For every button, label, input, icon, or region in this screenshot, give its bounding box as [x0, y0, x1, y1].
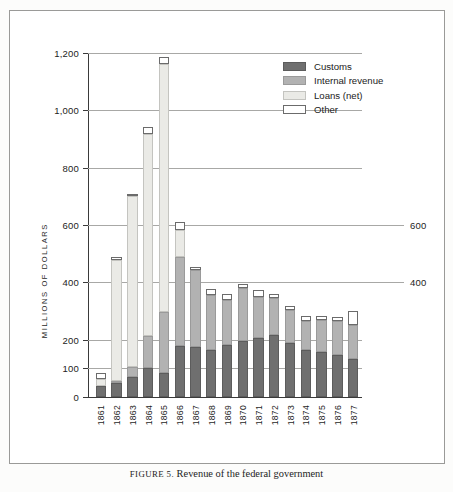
bar-segment-internal-revenue-1872: [269, 298, 279, 336]
y-axis-label-right-600: 600: [410, 220, 426, 231]
bar-1868[interactable]: [206, 289, 216, 397]
figure-caption: FIGURE 5. Revenue of the federal governm…: [0, 468, 453, 479]
legend-item-loans-net: Loans (net): [283, 88, 383, 103]
y-tick-600: [83, 225, 88, 226]
x-axis-label-1872: 1872: [270, 405, 280, 425]
bar-segment-internal-revenue-1865: [159, 312, 169, 372]
bar-segment-internal-revenue-1863: [127, 367, 137, 378]
bar-1871[interactable]: [253, 290, 263, 397]
bar-segment-customs-1866: [175, 346, 185, 397]
bar-1865[interactable]: [159, 57, 169, 397]
gridline-800: [88, 168, 362, 169]
y-axis-label-1200: 1,200: [54, 48, 79, 59]
bar-segment-customs-1870: [238, 341, 248, 397]
bar-segment-customs-1864: [143, 368, 153, 397]
x-axis-label-1862: 1862: [112, 405, 122, 425]
bar-segment-customs-1863: [127, 377, 137, 397]
bar-segment-customs-1868: [206, 350, 216, 397]
y-tick-800: [83, 168, 88, 169]
bar-segment-loans-net-1865: [159, 64, 169, 312]
y-tick-0: [83, 397, 88, 398]
legend-label-loans-net: Loans (net): [314, 90, 363, 101]
bar-segment-customs-1874: [301, 350, 311, 397]
chart-legend: Customs Internal revenue Loans (net) Oth…: [283, 59, 383, 117]
bar-1872[interactable]: [269, 294, 279, 397]
bar-segment-customs-1875: [316, 352, 326, 397]
bar-segment-internal-revenue-1867: [190, 270, 200, 346]
x-axis-label-1870: 1870: [238, 405, 248, 425]
bar-segment-loans-net-1866: [175, 230, 185, 256]
other-swatch: [283, 105, 306, 114]
bar-1876[interactable]: [332, 317, 342, 397]
bar-segment-internal-revenue-1869: [222, 300, 232, 346]
bar-segment-internal-revenue-1864: [143, 336, 153, 368]
bar-segment-customs-1876: [332, 355, 342, 397]
bar-segment-customs-1872: [269, 335, 279, 397]
bar-segment-internal-revenue-1866: [175, 257, 185, 346]
bar-1874[interactable]: [301, 316, 311, 397]
bar-segment-other-1864: [143, 127, 153, 134]
x-axis-label-1867: 1867: [191, 405, 201, 425]
bar-segment-loans-net-1861: [96, 379, 106, 386]
legend-item-other: Other: [283, 103, 383, 118]
x-axis-label-1865: 1865: [159, 405, 169, 425]
figure-page: 01002004006008001,0001,20040060018611862…: [0, 0, 453, 492]
bar-segment-internal-revenue-1877: [348, 325, 358, 359]
figure-caption-text: Revenue of the federal government: [177, 468, 324, 479]
bar-segment-customs-1865: [159, 373, 169, 397]
bar-1873[interactable]: [285, 306, 295, 397]
bar-1862[interactable]: [111, 257, 121, 397]
x-axis-label-1877: 1877: [349, 405, 359, 425]
x-axis-label-1875: 1875: [317, 405, 327, 425]
y-axis-label-400: 400: [63, 277, 79, 288]
y-tick-200: [83, 340, 88, 341]
bar-segment-customs-1867: [190, 347, 200, 397]
y-axis-label-800: 800: [63, 162, 79, 173]
y-axis-label-1000: 1,000: [54, 105, 79, 116]
y-axis-label-600: 600: [63, 220, 79, 231]
bar-segment-customs-1877: [348, 359, 358, 397]
x-axis-label-1876: 1876: [333, 405, 343, 425]
y-axis-title: MILLIONS OF DOLLARS: [40, 223, 49, 338]
bar-segment-customs-1862: [111, 383, 121, 397]
bar-1863[interactable]: [127, 194, 137, 397]
figure-number: FIGURE 5.: [130, 469, 174, 479]
bar-1864[interactable]: [143, 127, 153, 397]
bar-segment-customs-1869: [222, 345, 232, 397]
x-axis-label-1869: 1869: [223, 405, 233, 425]
bar-segment-other-1866: [175, 222, 185, 231]
bar-segment-loans-net-1864: [143, 134, 153, 336]
y-tick-1000: [83, 110, 88, 111]
bar-segment-internal-revenue-1876: [332, 321, 342, 354]
gridline-right-600: [362, 225, 404, 226]
bar-1870[interactable]: [238, 284, 248, 397]
bar-segment-internal-revenue-1868: [206, 295, 216, 350]
bar-segment-internal-revenue-1875: [316, 320, 326, 352]
bar-segment-internal-revenue-1873: [285, 310, 295, 343]
y-tick-1200: [83, 53, 88, 54]
y-axis-label-200: 200: [63, 334, 79, 345]
bar-1866[interactable]: [175, 222, 185, 397]
internal-revenue-swatch: [283, 76, 306, 85]
x-axis-label-1863: 1863: [128, 405, 138, 425]
bar-segment-other-1877: [348, 311, 358, 325]
y-axis-label-0: 0: [74, 392, 79, 403]
bar-segment-loans-net-1863: [127, 196, 137, 367]
bar-segment-customs-1871: [253, 338, 263, 397]
x-axis-label-1866: 1866: [175, 405, 185, 425]
x-axis-label-1871: 1871: [254, 405, 264, 425]
bar-segment-loans-net-1862: [111, 260, 121, 381]
bar-1877[interactable]: [348, 311, 358, 397]
bar-segment-internal-revenue-1874: [301, 321, 311, 350]
bar-1875[interactable]: [316, 316, 326, 397]
bar-segment-other-1865: [159, 57, 169, 64]
x-axis-label-1864: 1864: [144, 405, 154, 425]
legend-label-internal-revenue: Internal revenue: [314, 75, 383, 86]
legend-item-customs: Customs: [283, 59, 383, 74]
bar-1869[interactable]: [222, 294, 232, 397]
y-axis-label-100: 100: [63, 363, 79, 374]
bar-1867[interactable]: [190, 267, 200, 397]
bar-segment-customs-1861: [96, 386, 106, 397]
bar-1861[interactable]: [96, 373, 106, 397]
x-axis-line: [88, 397, 362, 398]
